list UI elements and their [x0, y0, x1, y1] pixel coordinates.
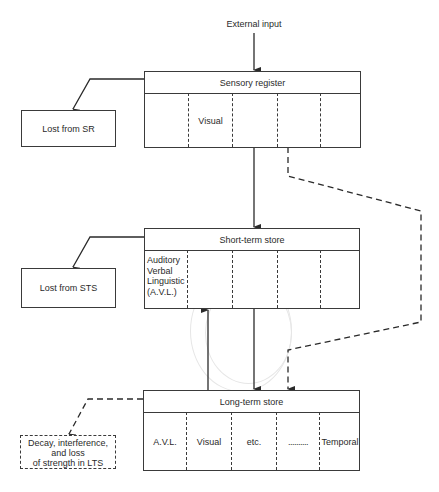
sr-loss-arrow — [73, 79, 144, 109]
lts-decay-dashed-arrow — [69, 399, 143, 434]
lts-decay-line: Decay, interference, — [21, 438, 115, 448]
lost-from-sts-box: Lost from STS — [21, 268, 116, 308]
lts-cell-ellipsis: .......... — [277, 413, 319, 470]
cell-divider — [277, 93, 278, 147]
sensory-register-box: Sensory register Visual — [144, 71, 361, 148]
long-term-store-title: Long-term store — [144, 391, 359, 413]
cell-divider — [232, 250, 233, 308]
lts-decay-line: of strength in LTS — [21, 458, 115, 468]
sts-loss-arrow — [73, 237, 144, 267]
cell-divider — [320, 250, 321, 308]
lost-from-sts-label: Lost from STS — [22, 269, 115, 307]
lts-decay-line: and loss — [21, 448, 115, 458]
short-term-store-box: Short-term store Auditory Verbal Linguis… — [144, 228, 360, 309]
short-term-store-title: Short-term store — [145, 229, 359, 251]
sts-avl-line: Auditory — [147, 255, 189, 266]
lost-from-sr-label: Lost from SR — [22, 111, 115, 146]
sts-avl-line: (A.V.L.) — [147, 287, 189, 298]
sensory-register-title: Sensory register — [145, 72, 360, 94]
external-input-label: External input — [214, 19, 294, 29]
lts-decay-text: Decay, interference, and loss of strengt… — [21, 438, 115, 468]
sts-avl-line: Verbal — [147, 266, 189, 277]
lts-cell-etc: etc. — [232, 413, 276, 470]
lts-decay-box: Decay, interference, and loss of strengt… — [20, 435, 116, 469]
cell-divider — [232, 93, 233, 147]
lost-from-sr-box: Lost from SR — [21, 110, 116, 147]
cell-divider — [277, 250, 278, 308]
cell-divider — [320, 93, 321, 147]
long-term-store-box: Long-term store A.V.L. Visual etc. .....… — [143, 390, 360, 471]
lts-cell-temporal: Temporal — [320, 413, 360, 470]
memory-model-diagram: External input Sensory register Visual L… — [0, 0, 439, 492]
sts-avl-line: Linguistic — [147, 276, 189, 287]
sts-cell-avl: Auditory Verbal Linguistic (A.V.L.) — [147, 255, 189, 297]
sr-cell-visual: Visual — [189, 94, 232, 147]
lts-cell-visual: Visual — [187, 413, 231, 470]
lts-cell-avl: A.V.L. — [144, 413, 186, 470]
